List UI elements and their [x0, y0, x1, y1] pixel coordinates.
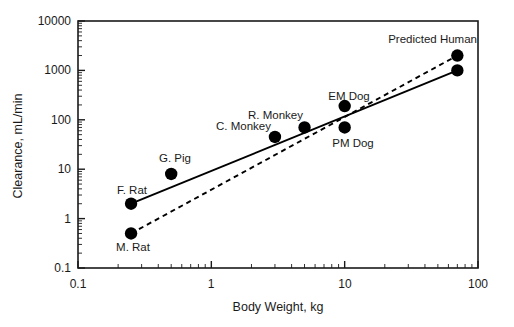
series-line-dashed-regression: [131, 56, 457, 234]
x-tick-label-0.1: 0.1: [70, 277, 87, 291]
x-axis-title: Body Weight, kg: [233, 300, 324, 314]
y-tick-label-10: 10: [58, 162, 72, 176]
data-point-r-monkey: [298, 121, 310, 133]
y-tick-label-100: 100: [51, 113, 71, 127]
data-point-pm-dog: [338, 121, 350, 133]
y-tick-labels: 10000 1000 100 10 1 0.1: [38, 14, 72, 275]
point-label-em-dog: EM Dog: [328, 90, 370, 102]
x-tick-label-1: 1: [208, 277, 215, 291]
data-point-labels: F. Rat M. Rat G. Pig C. Monkey R. Monkey…: [116, 33, 477, 253]
y-tick-label-0.1: 0.1: [54, 261, 71, 275]
y-tick-label-1000: 1000: [44, 63, 71, 77]
y-tick-label-1: 1: [64, 212, 71, 226]
y-tick-label-10000: 10000: [38, 14, 72, 28]
point-label-r-monkey: R. Monkey: [248, 109, 303, 121]
data-point-8: [451, 64, 463, 76]
x-tick-labels: 0.1 1 10 100: [70, 277, 489, 291]
clearance-vs-body-weight-chart: 10000 1000 100 10 1 0.1 0.1 1 10 100 Bod…: [0, 0, 514, 327]
data-point-m-rat: [125, 227, 137, 239]
data-point-7: [451, 49, 463, 61]
point-label-predicted-human: Predicted Human: [388, 33, 477, 45]
point-label-m-rat: M. Rat: [116, 241, 151, 253]
series-lines: [131, 56, 457, 234]
point-label-f-rat: F. Rat: [117, 184, 148, 196]
y-axis-ticks: [78, 21, 85, 268]
point-label-c-monkey: C. Monkey: [216, 120, 271, 132]
x-tick-label-100: 100: [468, 277, 488, 291]
chart-figure: 10000 1000 100 10 1 0.1 0.1 1 10 100 Bod…: [0, 0, 514, 327]
data-point-c-monkey: [269, 131, 281, 143]
point-label-pm-dog: PM Dog: [332, 137, 374, 149]
x-tick-label-10: 10: [338, 277, 352, 291]
data-markers: [125, 49, 464, 239]
data-point-f-rat: [125, 198, 137, 210]
series-line-solid-regression: [131, 70, 457, 203]
y-axis-title: Clearance, mL/min: [11, 94, 25, 199]
point-label-g-pig: G. Pig: [159, 152, 191, 164]
data-point-g-pig: [165, 168, 177, 180]
x-axis-ticks: [78, 261, 478, 268]
